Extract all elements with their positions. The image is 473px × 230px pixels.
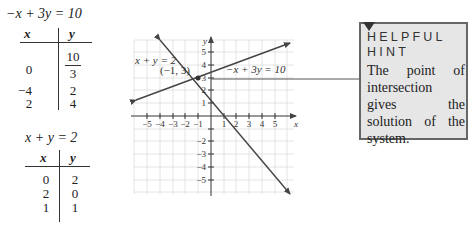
y-tick-label: 1 (202, 98, 207, 108)
hint-body: The point of intersection gives the solu… (367, 62, 465, 147)
x-tick-label: 2 (234, 119, 239, 129)
y-tick-label: 3 (202, 73, 207, 83)
intersection-point (196, 76, 201, 81)
x-tick-label: 4 (260, 119, 265, 129)
y-tick-label: 4 (202, 60, 207, 70)
x-tick-label: 5 (273, 119, 278, 129)
line2-label: −x + 3y = 10 (226, 63, 286, 75)
y-tick-label: 5 (202, 47, 207, 57)
helpful-hint-box: HELPFUL HINT The point of intersection g… (359, 22, 468, 140)
x-tick-label: 3 (247, 119, 252, 129)
x-axis-label: x (293, 119, 298, 129)
x-tick-label: −5 (142, 119, 152, 129)
intersection-label: (−1, 3) (160, 64, 190, 77)
y-tick-label: −3 (196, 149, 206, 159)
x-tick-label: 1 (222, 119, 227, 129)
y-tick-label: −2 (196, 136, 206, 146)
x-tick-label: −3 (168, 119, 178, 129)
y-axis-label: y (202, 36, 207, 46)
x-tick-label: −1 (193, 119, 203, 129)
x-tick-label: −4 (155, 119, 165, 129)
y-tick-label: −5 (196, 175, 206, 185)
y-tick-label: 2 (202, 85, 207, 95)
y-tick-label: −4 (196, 162, 206, 172)
hint-title: HELPFUL HINT (367, 30, 446, 60)
x-tick-label: −2 (180, 119, 190, 129)
